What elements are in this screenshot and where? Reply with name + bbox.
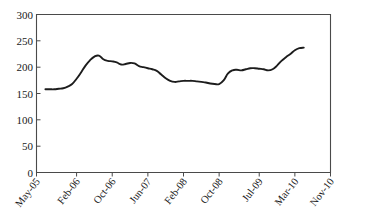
y-label-300: 300 xyxy=(17,9,34,21)
x-label-3: Jun-07 xyxy=(127,176,153,205)
x-label-2: Oct-06 xyxy=(91,176,118,206)
x-label-6: Jul-09 xyxy=(240,176,265,203)
x-label-0: May-05 xyxy=(13,176,42,209)
y-label-50: 50 xyxy=(22,140,34,152)
series-line-1 xyxy=(45,48,303,90)
y-label-200: 200 xyxy=(17,61,34,73)
plot-frame xyxy=(37,15,331,173)
line-chart-figure: 0 50 100 150 200 250 300 May-05Feb-06Oct… xyxy=(0,0,371,221)
x-label-1: Feb-06 xyxy=(55,176,82,206)
x-label-8: Nov-10 xyxy=(308,176,336,208)
y-label-100: 100 xyxy=(17,114,34,126)
y-label-150: 150 xyxy=(17,88,34,100)
x-label-5: Oct-08 xyxy=(198,176,225,206)
x-tick-labels: May-05Feb-06Oct-06Jun-07Feb-08Oct-08Jul-… xyxy=(13,176,336,209)
y-tick-labels: 0 50 100 150 200 250 300 xyxy=(17,9,34,179)
y-label-250: 250 xyxy=(17,35,34,47)
series-group xyxy=(45,48,303,90)
x-label-4: Feb-08 xyxy=(162,176,189,206)
plot-border xyxy=(37,15,331,173)
x-label-7: Mar-10 xyxy=(273,176,301,207)
chart-canvas: 0 50 100 150 200 250 300 May-05Feb-06Oct… xyxy=(0,0,371,221)
y-tick-marks xyxy=(37,41,41,173)
x-tick-marks xyxy=(37,173,331,177)
